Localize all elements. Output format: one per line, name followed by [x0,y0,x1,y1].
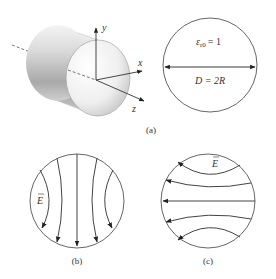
field-line-c-lower-outer [178,228,240,240]
field-line-c-upper-inner [166,180,251,187]
cylinder-front-opening [66,40,130,116]
field-diagram-horizontal: E [161,154,255,248]
y-axis-label: y [101,22,107,33]
cross-section-diagram: εr0= 1 D = 2R [163,18,257,112]
cylinder-3d-view: y x z [12,22,144,116]
field-label-b: E [36,195,43,206]
cylinder-axis-dashed [12,45,30,52]
caption-b: (b) [72,256,83,266]
field-line-c-upper-outer [178,162,240,174]
caption-c: (c) [203,256,213,266]
caption-a: (a) [146,125,156,135]
field-label-c: E [211,158,218,169]
field-line-c-lower-inner [166,215,251,222]
field-line-b-right-inner [92,158,97,242]
x-axis-label: x [137,57,143,68]
field-line-b-left-inner [57,158,62,242]
z-axis-label: z [131,103,136,114]
figure-canvas: y x z εr0= 1 D = 2R (a) E (b) E (c) [0,0,276,279]
field-diagram-vertical: E [30,154,124,248]
permittivity-label: εr0= 1 [196,36,221,49]
field-line-b-right-outer [105,170,113,228]
diameter-label: D = 2R [194,75,225,86]
cross-section-circle [163,18,257,112]
